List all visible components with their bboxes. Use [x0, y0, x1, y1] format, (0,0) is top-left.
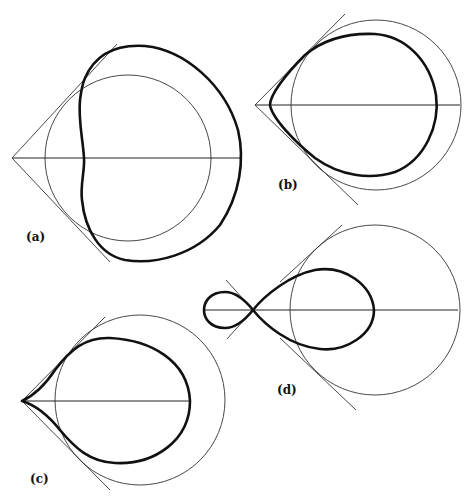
panel-c: (c)	[22, 315, 225, 490]
panel-a: (a)	[12, 44, 242, 262]
tangent-line-lower	[12, 158, 110, 262]
panel-label-d: (d)	[277, 383, 297, 397]
panel-label-b: (b)	[278, 178, 298, 192]
curve-a	[80, 46, 241, 261]
panel-label-c: (c)	[30, 472, 49, 486]
tangent-line-upper	[280, 225, 342, 282]
tangent-line-lower	[255, 105, 358, 205]
panel-d: (d)	[204, 225, 460, 410]
figure-canvas: (a) (b) (c) (d)	[0, 0, 469, 500]
panel-b: (b)	[255, 14, 461, 205]
panel-label-a: (a)	[26, 230, 45, 244]
tangent-line-upper	[12, 44, 117, 158]
curve-d	[204, 269, 374, 349]
